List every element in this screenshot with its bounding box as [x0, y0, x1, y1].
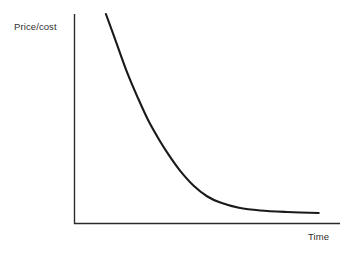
- y-axis-label: Price/cost: [14, 22, 57, 32]
- decay-curve-line: [106, 14, 319, 213]
- chart-container: Price/cost Time: [0, 0, 351, 256]
- chart-plot-area: [0, 0, 351, 256]
- x-axis-label: Time: [308, 232, 329, 242]
